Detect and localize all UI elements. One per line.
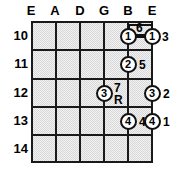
string-label-d: D	[72, 3, 88, 18]
string-label-e-low: E	[23, 3, 39, 18]
annotation-4: 4	[139, 116, 146, 129]
fret-label-12: 12	[2, 85, 28, 100]
fret-line-top	[31, 21, 153, 23]
annotation-3-fret10: 3	[162, 31, 169, 44]
fret-dot-g-12[interactable]: 3	[96, 85, 113, 102]
fret-line-10-11	[31, 49, 153, 51]
annotation-1: 1	[163, 116, 170, 129]
fret-label-13: 13	[2, 113, 28, 128]
fret-dot-e-high-10[interactable]: 1	[144, 28, 161, 45]
fret-line-11-12	[31, 78, 153, 80]
fret-dot-e-high-12[interactable]: 3	[144, 85, 161, 102]
string-label-e-high: E	[144, 3, 160, 18]
chord-diagram: E A D G B E 10 11 12 13 14 1 1 2 3 3 4 4…	[0, 0, 172, 171]
fret-label-14: 14	[2, 141, 28, 156]
string-line-d	[79, 21, 81, 163]
fret-dot-b-10[interactable]: 1	[120, 28, 137, 45]
fret-label-11: 11	[2, 56, 28, 71]
annotation-root: R	[114, 94, 123, 107]
fret-line-bottom	[31, 161, 153, 163]
annotation-2: 2	[163, 88, 170, 101]
string-line-e-low	[31, 21, 33, 163]
fret-line-13-14	[31, 134, 153, 136]
fret-dot-b-11[interactable]: 2	[120, 56, 137, 73]
string-label-a: A	[47, 3, 63, 18]
fret-dot-e-high-13[interactable]: 4	[144, 113, 161, 130]
fret-line-12-13	[31, 106, 153, 108]
string-label-b: B	[120, 3, 136, 18]
annotation-6: 6	[136, 22, 143, 35]
fret-label-10: 10	[2, 28, 28, 43]
annotation-5: 5	[139, 59, 146, 72]
fret-dot-b-13[interactable]: 4	[120, 113, 137, 130]
string-label-g: G	[96, 3, 112, 18]
string-line-a	[55, 21, 57, 163]
